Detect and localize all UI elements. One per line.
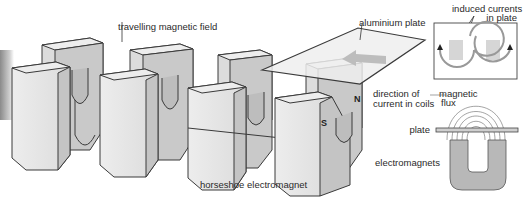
label-magnetic-flux-2: flux xyxy=(441,98,456,108)
aluminium-plate xyxy=(262,28,425,84)
diagram-canvas: travelling magnetic field aluminium plat… xyxy=(0,0,523,201)
horseshoe-magnet-front-2 xyxy=(100,69,158,177)
pole-north-label: N xyxy=(354,94,361,104)
pole-south-label: S xyxy=(321,118,327,128)
label-aluminium-plate: aluminium plate xyxy=(359,18,426,28)
label-travelling-magnetic-field: travelling magnetic field xyxy=(118,22,217,32)
inset-electromagnet xyxy=(450,140,506,190)
inset-induced-currents xyxy=(434,22,517,79)
label-horseshoe-electromagnet: horseshoe electromagnet xyxy=(200,180,307,190)
label-electromagnets: electromagnets xyxy=(375,158,440,168)
label-plate: plate xyxy=(400,125,430,135)
label-induced-currents-2: in plate xyxy=(452,13,517,23)
label-direction-of-current-2: current in coils xyxy=(373,99,434,109)
inset-plate xyxy=(436,128,518,132)
